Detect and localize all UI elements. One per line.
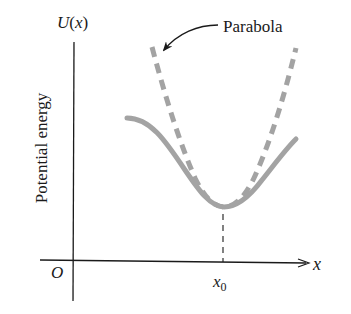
origin-label: O [51,263,63,282]
diagram-canvas: U(x) Potential energy O x x0 Parabola [0,0,351,314]
potential-energy-diagram: U(x) Potential energy O x x0 Parabola [0,0,351,314]
y-axis-label: U(x) [57,13,88,32]
equilibrium-label: x0 [212,272,227,294]
y-axis-title: Potential energy [32,92,51,203]
x-axis-label: x [312,254,321,274]
y-axis [73,42,74,301]
parabola-annotation: Parabola [223,17,283,36]
parabola-curve [152,47,296,207]
x-axis [40,260,306,263]
annotation-arrow [164,25,218,50]
